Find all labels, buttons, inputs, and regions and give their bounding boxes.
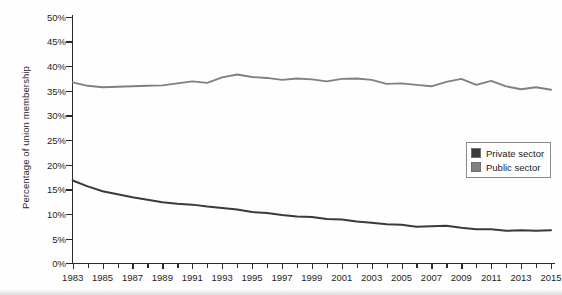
series-line-public-sector: [73, 74, 551, 89]
chart-legend: Private sector Public sector: [466, 142, 551, 178]
legend-label-private-sector: Private sector: [486, 148, 544, 159]
series-line-private-sector: [73, 180, 551, 230]
legend-item-private-sector: Private sector: [471, 146, 544, 160]
legend-item-public-sector: Public sector: [471, 160, 544, 174]
legend-label-public-sector: Public sector: [486, 162, 540, 173]
page-edge-shadow: [0, 289, 562, 295]
legend-swatch-private-sector: [471, 148, 481, 158]
chart-figure: Percentage of union membership 50%45%40%…: [0, 0, 562, 295]
legend-swatch-public-sector: [471, 162, 481, 172]
